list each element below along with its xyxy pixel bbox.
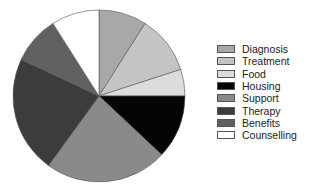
legend-swatch xyxy=(217,70,235,78)
legend-item: Housing xyxy=(217,80,297,92)
legend-swatch xyxy=(217,94,235,102)
legend-label: Counselling xyxy=(242,129,297,141)
legend-swatch xyxy=(217,57,235,65)
legend-item: Treatment xyxy=(217,55,297,67)
legend-label: Treatment xyxy=(242,55,289,67)
legend-item: Diagnosis xyxy=(217,43,297,55)
legend-swatch xyxy=(217,131,235,139)
legend-item: Benefits xyxy=(217,117,297,129)
legend-label: Support xyxy=(242,92,279,104)
legend-label: Benefits xyxy=(242,117,280,129)
legend: Diagnosis Treatment Food Housing Support… xyxy=(217,43,297,141)
legend-label: Diagnosis xyxy=(242,43,288,55)
legend-swatch xyxy=(217,119,235,127)
legend-label: Therapy xyxy=(242,105,281,117)
legend-label: Food xyxy=(242,68,266,80)
legend-swatch xyxy=(217,45,235,53)
legend-item: Food xyxy=(217,68,297,80)
legend-swatch xyxy=(217,82,235,90)
legend-label: Housing xyxy=(242,80,281,92)
legend-item: Support xyxy=(217,92,297,104)
legend-item: Therapy xyxy=(217,104,297,116)
pie-chart xyxy=(0,0,200,191)
legend-swatch xyxy=(217,107,235,115)
legend-item: Counselling xyxy=(217,129,297,141)
